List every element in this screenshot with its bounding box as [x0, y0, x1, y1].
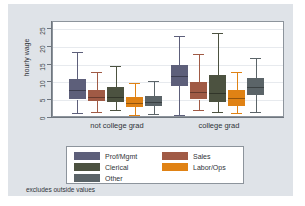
whisker-lower: [237, 106, 238, 114]
whisker-cap-upper: [129, 83, 140, 84]
legend-item-clerical[interactable]: Clerical: [74, 163, 128, 171]
whisker-cap-lower: [193, 110, 204, 111]
plot-area: [52, 21, 284, 117]
median-line: [145, 102, 162, 103]
gridline: [53, 47, 283, 48]
median-line: [126, 103, 143, 104]
median-line: [247, 87, 264, 88]
box: [88, 90, 105, 101]
box: [190, 82, 207, 100]
whisker-upper: [97, 72, 98, 90]
whisker-cap-upper: [174, 36, 185, 37]
legend-label: Other: [105, 175, 123, 182]
whisker-cap-lower: [72, 113, 83, 114]
legend-swatch-icon: [162, 163, 188, 171]
whisker-lower: [135, 107, 136, 115]
x-group-label-2: college grad: [174, 121, 264, 130]
chart-figure: hourly wage 0510152025 not college gradc…: [8, 4, 293, 196]
legend-item-sales[interactable]: Sales: [162, 152, 211, 160]
whisker-lower: [97, 101, 98, 112]
whisker-upper: [116, 66, 117, 87]
whisker-cap-upper: [72, 52, 83, 53]
whisker-lower: [256, 95, 257, 112]
y-tick-label: 20: [39, 45, 46, 63]
legend-label: Sales: [193, 153, 211, 160]
whisker-lower: [199, 100, 200, 110]
whisker-upper: [179, 36, 180, 66]
whisker-lower: [116, 102, 117, 109]
legend-item-other[interactable]: Other: [74, 174, 123, 182]
gridline: [53, 29, 283, 30]
legend-item-labor-ops[interactable]: Labor/Ops: [162, 163, 226, 171]
whisker-lower: [179, 86, 180, 115]
y-tick-label: 10: [39, 81, 46, 99]
legend-label: Prof/Mgmt: [105, 153, 137, 160]
y-tick-label-wrap: 25: [26, 23, 44, 33]
whisker-cap-upper: [231, 72, 242, 73]
y-tick-label: 25: [39, 28, 46, 46]
whisker-cap-upper: [110, 66, 121, 67]
legend-swatch-icon: [162, 152, 188, 160]
whisker-cap-upper: [193, 54, 204, 55]
whisker-upper: [135, 83, 136, 97]
legend: Prof/MgmtClericalOtherSalesLabor/Ops: [66, 146, 244, 184]
whisker-upper: [256, 58, 257, 78]
whisker-cap-lower: [110, 110, 121, 111]
y-tick-label: 0: [39, 117, 46, 135]
x-axis-line: [51, 117, 284, 118]
median-line: [209, 93, 226, 94]
box: [107, 87, 124, 102]
whisker-cap-upper: [91, 72, 102, 73]
whisker-cap-lower: [174, 115, 185, 116]
whisker-lower: [77, 100, 78, 114]
legend-swatch-icon: [74, 174, 100, 182]
median-line: [69, 90, 86, 91]
whisker-cap-lower: [212, 112, 223, 113]
whisker-cap-lower: [250, 112, 261, 113]
whisker-lower: [154, 106, 155, 114]
legend-item-prof-mgmt[interactable]: Prof/Mgmt: [74, 152, 137, 160]
median-line: [107, 97, 124, 98]
median-line: [228, 98, 245, 99]
whisker-upper: [77, 52, 78, 79]
box: [209, 75, 226, 102]
y-tick-label: 15: [39, 63, 46, 81]
whisker-cap-lower: [148, 114, 159, 115]
whisker-upper: [237, 72, 238, 90]
whisker-upper: [154, 81, 155, 96]
footnote: excludes outside values: [26, 186, 95, 193]
legend-swatch-icon: [74, 152, 100, 160]
box: [247, 78, 264, 95]
median-line: [171, 76, 188, 77]
whisker-upper: [218, 33, 219, 74]
gridline: [53, 65, 283, 66]
x-group-label-1: not college grad: [72, 121, 162, 130]
whisker-cap-upper: [148, 81, 159, 82]
whisker-cap-upper: [212, 33, 223, 34]
y-tick-label: 5: [39, 99, 46, 117]
legend-label: Labor/Ops: [193, 164, 226, 171]
whisker-lower: [218, 102, 219, 112]
whisker-upper: [199, 54, 200, 82]
whisker-cap-lower: [129, 115, 140, 116]
whisker-cap-lower: [231, 113, 242, 114]
whisker-cap-lower: [91, 112, 102, 113]
median-line: [88, 97, 105, 98]
median-line: [190, 92, 207, 93]
legend-label: Clerical: [105, 164, 128, 171]
whisker-cap-upper: [250, 58, 261, 59]
legend-swatch-icon: [74, 163, 100, 171]
